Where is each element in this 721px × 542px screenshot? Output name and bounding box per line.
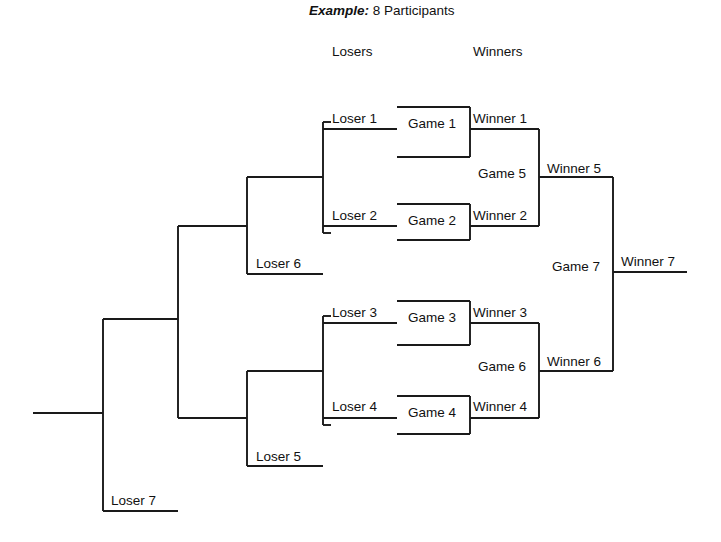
- bracket-label-game-4: Game 4: [408, 406, 456, 420]
- bracket-label-loser-7: Loser 7: [111, 494, 156, 508]
- bracket-label-game-6: Game 6: [478, 360, 526, 374]
- bracket-label-loser-1: Loser 1: [332, 112, 377, 126]
- bracket-label-loser-3: Loser 3: [332, 306, 377, 320]
- bracket-label-winner-6: Winner 6: [547, 355, 601, 369]
- bracket-label-winner-7: Winner 7: [621, 255, 675, 269]
- bracket-label-winner-4: Winner 4: [473, 400, 527, 414]
- bracket-label-winner-2: Winner 2: [473, 209, 527, 223]
- bracket-label-game-1: Game 1: [408, 117, 456, 131]
- bracket-label-game-7: Game 7: [552, 260, 600, 274]
- bracket-label-winner-3: Winner 3: [473, 306, 527, 320]
- bracket-diagram-page: Example: 8 Participants Losers Winners L…: [0, 0, 721, 542]
- bracket-label-loser-5: Loser 5: [256, 450, 301, 464]
- bracket-label-game-2: Game 2: [408, 214, 456, 228]
- bracket-label-winner-1: Winner 1: [473, 112, 527, 126]
- bracket-label-loser-2: Loser 2: [332, 209, 377, 223]
- bracket-label-game-3: Game 3: [408, 311, 456, 325]
- bracket-lines: [0, 0, 721, 542]
- bracket-label-winner-5: Winner 5: [547, 162, 601, 176]
- bracket-label-loser-4: Loser 4: [332, 400, 377, 414]
- bracket-label-game-5: Game 5: [478, 167, 526, 181]
- bracket-label-loser-6: Loser 6: [256, 257, 301, 271]
